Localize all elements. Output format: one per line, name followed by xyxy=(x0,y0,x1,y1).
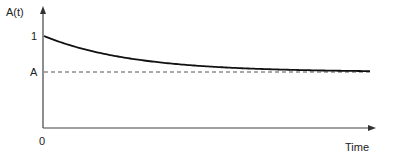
x-origin-label: 0 xyxy=(39,135,45,147)
decay-curve xyxy=(44,36,370,71)
y-axis-arrow-icon xyxy=(40,6,46,14)
decay-chart: A(t) 1 A 0 Time xyxy=(0,0,394,157)
y-tick-a: A xyxy=(30,66,38,78)
y-axis-label: A(t) xyxy=(6,6,24,18)
x-axis-label: Time xyxy=(345,141,369,153)
y-tick-one: 1 xyxy=(31,30,37,42)
x-axis-arrow-icon xyxy=(368,125,376,131)
